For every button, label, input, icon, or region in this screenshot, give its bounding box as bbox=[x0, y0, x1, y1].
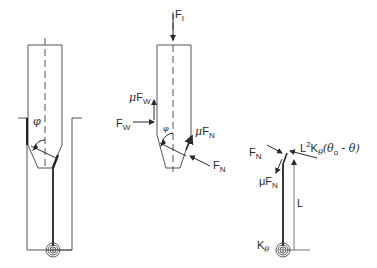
blade-tip bbox=[283, 153, 287, 164]
friction-label: μFN bbox=[259, 176, 278, 187]
normal-force-label: FN bbox=[213, 160, 226, 171]
force-top-label: FI bbox=[175, 9, 184, 20]
diagram-canvas bbox=[0, 0, 377, 268]
normal-force-label: FN bbox=[249, 147, 262, 158]
plunger-tip bbox=[157, 135, 191, 168]
torsion-spring-icon bbox=[276, 243, 290, 257]
length-label: L bbox=[297, 198, 303, 209]
phi-label: φ bbox=[163, 125, 169, 133]
spring-constant-label: Kθ bbox=[257, 240, 269, 251]
friction-arrow bbox=[276, 159, 282, 173]
wall-force-label: FW bbox=[116, 118, 130, 129]
normal-force-arrow bbox=[190, 156, 210, 166]
wall-friction-label: μFW bbox=[129, 92, 150, 103]
normal-force-arrow bbox=[267, 145, 282, 153]
figure-1-assembly bbox=[18, 38, 82, 257]
plunger-body bbox=[157, 45, 191, 135]
moment-label: L2Kθ(θo - θ) bbox=[300, 143, 360, 154]
normal-friction-label: μFN bbox=[195, 126, 215, 137]
phi-label: φ bbox=[33, 116, 41, 127]
normal-friction-arrow bbox=[186, 136, 192, 150]
figure-3-blade-model bbox=[267, 145, 317, 257]
